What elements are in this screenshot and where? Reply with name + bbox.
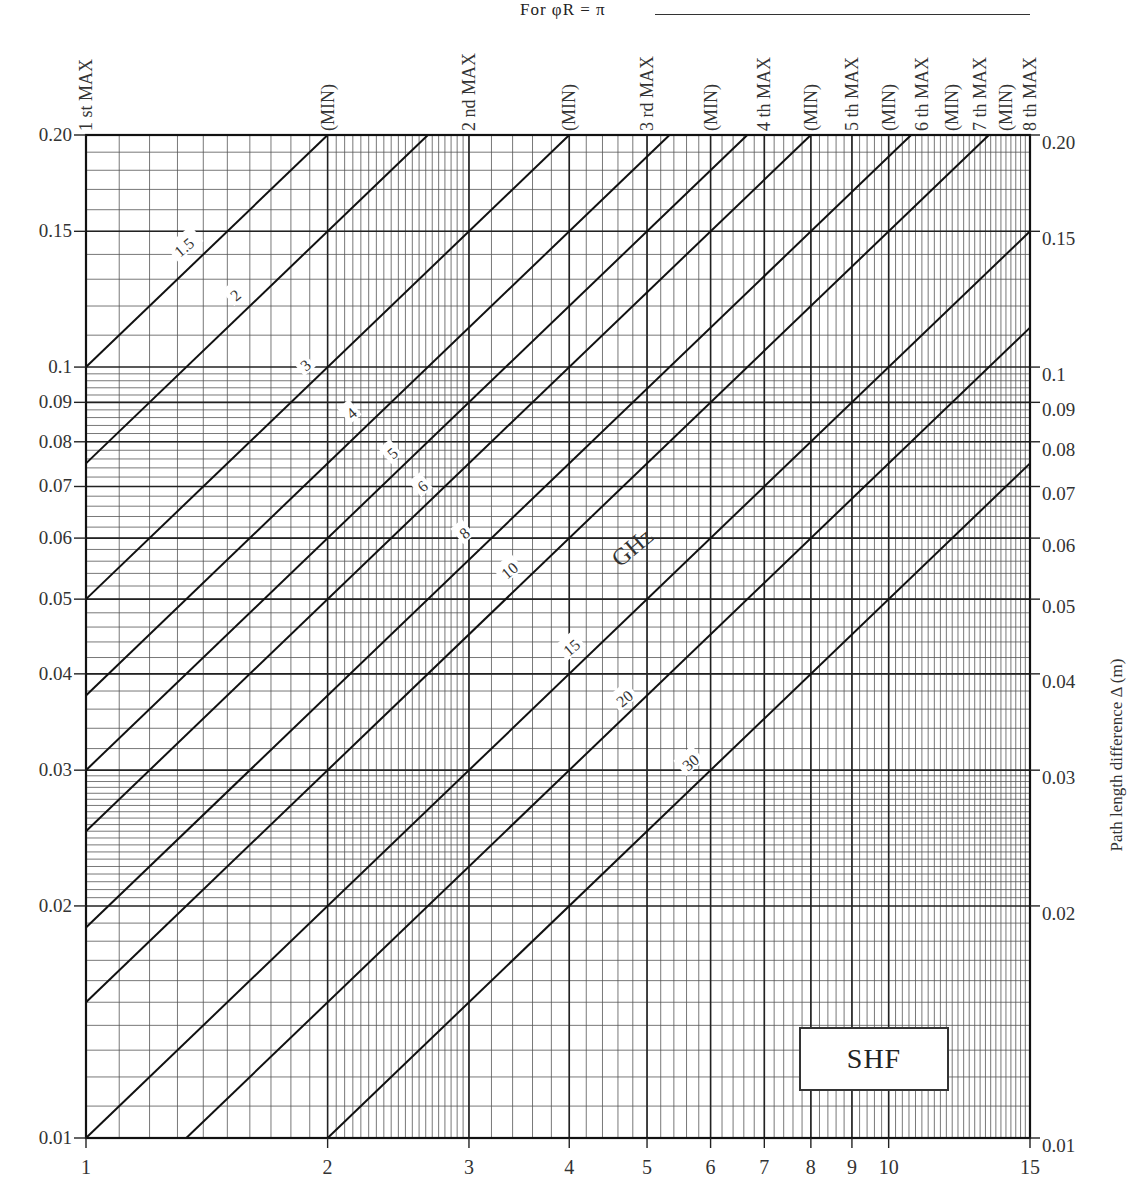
x-tick: 9 (847, 1156, 857, 1178)
top-order-label: 5 th MAX (842, 57, 862, 131)
ghz-annotation: GHz (607, 523, 658, 572)
top-order-label: 8 th MAX (1020, 57, 1040, 131)
top-order-labels: 1 st MAX(MIN)2 nd MAX(MIN)3 rd MAX(MIN)4… (76, 53, 1040, 131)
y-tick-left: 0.03 (39, 759, 72, 780)
top-order-label: (MIN) (996, 84, 1017, 131)
top-order-label: (MIN) (879, 84, 900, 131)
y-tick-right: 0.1 (1042, 364, 1066, 385)
y-tick-left: 0.06 (39, 527, 72, 548)
top-order-label: (MIN) (559, 84, 580, 131)
x-tick: 4 (564, 1156, 574, 1178)
axes: 0.010.010.020.020.030.030.040.040.050.05… (39, 124, 1076, 1178)
y-tick-right: 0.05 (1042, 596, 1075, 617)
y-tick-left: 0.05 (39, 588, 72, 609)
top-order-label: 6 th MAX (912, 57, 932, 131)
x-tick: 8 (806, 1156, 816, 1178)
y-axis-label: Path length difference Δ (m) (1107, 659, 1126, 852)
y-tick-right: 0.03 (1042, 767, 1075, 788)
y-tick-left: 0.08 (39, 431, 72, 452)
y-tick-right: 0.04 (1042, 671, 1076, 692)
top-order-label: (MIN) (701, 84, 722, 131)
top-order-label: (MIN) (318, 84, 339, 131)
x-tick: 7 (759, 1156, 769, 1178)
y-tick-right: 0.01 (1042, 1135, 1075, 1156)
y-tick-left: 0.07 (39, 475, 72, 496)
x-tick: 10 (879, 1156, 899, 1178)
y-tick-left: 0.09 (39, 391, 72, 412)
y-tick-left: 0.20 (39, 124, 72, 145)
band-label-shf: SHF (799, 1027, 949, 1091)
y-tick-right: 0.06 (1042, 535, 1075, 556)
top-order-label: (MIN) (942, 84, 963, 131)
chart-svg: 1.523456810152030 0.010.010.020.020.030.… (0, 0, 1145, 1195)
x-tick: 5 (642, 1156, 652, 1178)
y-tick-left: 0.04 (39, 663, 73, 684)
y-tick-left: 0.02 (39, 895, 72, 916)
top-order-label: (MIN) (801, 84, 822, 131)
y-tick-right: 0.08 (1042, 439, 1075, 460)
y-tick-right: 0.07 (1042, 483, 1075, 504)
x-tick: 2 (323, 1156, 333, 1178)
top-order-label: 7 th MAX (970, 57, 990, 131)
y-tick-right: 0.02 (1042, 903, 1075, 924)
x-tick: 15 (1020, 1156, 1040, 1178)
y-tick-right: 0.15 (1042, 228, 1075, 249)
x-tick: 1 (81, 1156, 91, 1178)
y-tick-right: 0.20 (1042, 132, 1075, 153)
y-tick-left: 0.15 (39, 220, 72, 241)
y-tick-right: 0.09 (1042, 399, 1075, 420)
top-order-label: 4 th MAX (754, 57, 774, 131)
y-tick-left: 0.1 (48, 356, 72, 377)
x-tick: 6 (706, 1156, 716, 1178)
top-order-label: 3 rd MAX (637, 56, 657, 131)
x-tick: 3 (464, 1156, 474, 1178)
y-tick-left: 0.01 (39, 1127, 72, 1148)
top-order-label: 1 st MAX (76, 59, 96, 131)
top-order-label: 2 nd MAX (459, 53, 479, 131)
